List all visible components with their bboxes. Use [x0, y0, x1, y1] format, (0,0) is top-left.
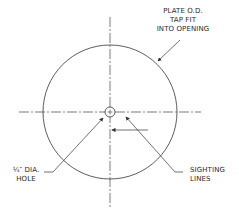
sighting-leader-1 — [126, 117, 183, 172]
hole-leader — [44, 118, 103, 172]
hole-label: ¼″ DIA. HOLE — [8, 166, 44, 184]
plate-od-label: PLATE O.D. TAP FIT INTO OPENING — [148, 7, 218, 34]
plate-od-leader — [158, 40, 180, 61]
sighting-lines-label: SIGHTING LINES — [190, 166, 225, 184]
